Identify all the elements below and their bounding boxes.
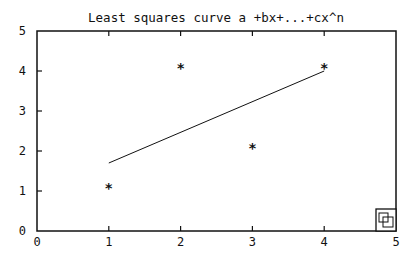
y-tick-label: 2 [19, 144, 26, 158]
window-zoom-icon[interactable] [376, 209, 396, 231]
data-point-marker: * [320, 60, 328, 76]
y-tick-label: 4 [19, 64, 26, 78]
plot-series: **** [105, 60, 329, 196]
x-tick-label: 4 [321, 235, 328, 249]
fit-line [109, 71, 324, 163]
x-tick-label: 0 [33, 235, 40, 249]
x-tick-label: 3 [249, 235, 256, 249]
plot-frame [37, 31, 396, 231]
y-axis: 012345 [19, 24, 42, 238]
y-tick-label: 1 [19, 184, 26, 198]
x-axis: 012345 [33, 31, 399, 249]
y-tick-label: 5 [19, 24, 26, 38]
data-point-marker: * [248, 140, 256, 156]
data-point-marker: * [176, 60, 184, 76]
y-tick-label: 3 [19, 104, 26, 118]
x-tick-label: 2 [177, 235, 184, 249]
chart-canvas: Least squares curve a +bx+...+cx^n 01234… [0, 0, 417, 266]
x-tick-label: 5 [392, 235, 399, 249]
data-point-marker: * [105, 180, 113, 196]
chart-title: Least squares curve a +bx+...+cx^n [88, 10, 344, 25]
y-tick-label: 0 [19, 224, 26, 238]
x-tick-label: 1 [105, 235, 112, 249]
